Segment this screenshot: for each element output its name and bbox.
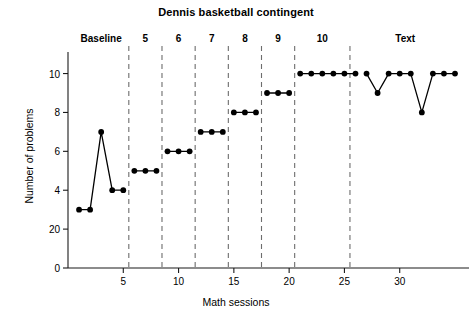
chart-figure: Dennis basketball contingent Number of p… (0, 0, 472, 322)
data-point (98, 129, 104, 135)
data-point (109, 187, 115, 193)
x-tick-label: 15 (228, 276, 239, 287)
phase-label: 8 (242, 33, 248, 44)
phase-label: Baseline (81, 33, 122, 44)
x-tick-label: 25 (339, 276, 350, 287)
data-point (375, 90, 381, 96)
y-tick-label: 6 (34, 146, 60, 157)
data-point (275, 90, 281, 96)
data-point (386, 71, 392, 77)
data-point (154, 168, 160, 174)
chart-title: Dennis basketball contingent (0, 6, 472, 18)
data-point (452, 71, 458, 77)
data-point (76, 207, 82, 213)
x-tick-label: 5 (121, 276, 127, 287)
data-point (87, 207, 93, 213)
data-point (187, 148, 193, 154)
data-point (297, 71, 303, 77)
data-point (242, 110, 248, 116)
data-point (231, 110, 237, 116)
x-tick-label: 30 (394, 276, 405, 287)
phase-label: 7 (209, 33, 215, 44)
x-tick-label: 20 (284, 276, 295, 287)
data-point (176, 148, 182, 154)
data-point (419, 110, 425, 116)
x-axis-label: Math sessions (0, 296, 472, 308)
data-point (131, 168, 137, 174)
data-point (330, 71, 336, 77)
data-point (253, 110, 259, 116)
data-point (441, 71, 447, 77)
plot-area (0, 0, 472, 322)
phase-label: 6 (176, 33, 182, 44)
data-point (397, 71, 403, 77)
data-point (408, 71, 414, 77)
y-tick-label: 8 (34, 107, 60, 118)
data-point (143, 168, 149, 174)
data-point (220, 129, 226, 135)
data-point (364, 71, 370, 77)
data-point (319, 71, 325, 77)
data-point (120, 187, 126, 193)
data-point (264, 90, 270, 96)
y-tick-label: 4 (34, 185, 60, 196)
data-point (209, 129, 215, 135)
phase-label: 9 (275, 33, 281, 44)
phase-label: 10 (317, 33, 328, 44)
phase-label: Text (395, 33, 415, 44)
data-point (286, 90, 292, 96)
data-point (308, 71, 314, 77)
phase-line (79, 132, 123, 210)
y-tick-label: 20 (34, 224, 60, 235)
y-tick-label: 0 (34, 263, 60, 274)
data-point (430, 71, 436, 77)
data-point (342, 71, 348, 77)
y-tick-label: 10 (34, 68, 60, 79)
x-tick-label: 10 (173, 276, 184, 287)
data-point (198, 129, 204, 135)
data-point (353, 71, 359, 77)
data-point (165, 148, 171, 154)
phase-label: 5 (143, 33, 149, 44)
